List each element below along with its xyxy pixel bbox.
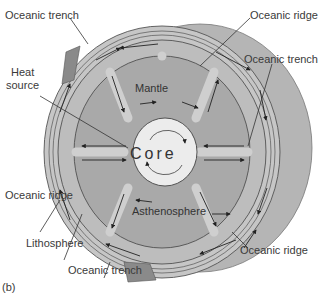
mantle-convection-diagram: Core Mantle Asthenosphere	[0, 0, 319, 293]
label-oceanic-trench-top-left: Oceanic trench	[5, 9, 79, 21]
label-oceanic-ridge-left: Oceanic ridge	[5, 189, 73, 201]
label-heat-source-line2: source	[6, 79, 39, 91]
panel-label: (b)	[2, 281, 15, 293]
core-label: Core	[130, 145, 177, 162]
asthenosphere-label: Asthenosphere	[132, 205, 206, 217]
mantle-label: Mantle	[135, 82, 168, 94]
label-lithosphere: Lithosphere	[26, 237, 84, 249]
label-oceanic-ridge-top-right: Oceanic ridge	[250, 9, 318, 21]
label-oceanic-trench-right: Oceanic trench	[244, 53, 318, 65]
label-heat-source-line1: Heat	[11, 66, 34, 78]
label-oceanic-trench-bottom: Oceanic trench	[68, 264, 142, 276]
label-oceanic-ridge-bottom-right: Oceanic ridge	[240, 244, 308, 256]
